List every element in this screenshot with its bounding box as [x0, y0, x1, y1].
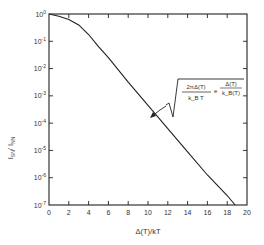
exp-symbol: e — [214, 88, 218, 94]
sqrt-denominator: k_B T — [188, 95, 204, 101]
y-tick-label: 10-5 — [34, 145, 46, 154]
x-tick-label: 2 — [67, 209, 71, 216]
exp-denominator: k_B(T) — [222, 90, 240, 96]
data-curve — [49, 14, 235, 205]
x-tick-label: 20 — [243, 209, 251, 216]
x-tick-label: 8 — [126, 209, 130, 216]
x-tick-label: 4 — [87, 209, 91, 216]
formula-annotation: 2πΔ(T) k_B T e Δ(T) k_B(T) — [150, 79, 244, 118]
y-axis-title: ISN/ INN — [6, 136, 16, 159]
x-tick-label: 6 — [106, 209, 110, 216]
y-tick-label: 10-2 — [34, 63, 46, 72]
x-tick-label: 18 — [223, 209, 231, 216]
sqrt-numerator: 2πΔ(T) — [186, 84, 205, 90]
y-tick-label: 10-4 — [34, 118, 46, 127]
x-tick-label: 16 — [204, 209, 212, 216]
exp-numerator: Δ(T) — [225, 81, 237, 87]
y-tick-label: 10-1 — [34, 36, 46, 45]
x-axis-title: Δ(T)/kT — [135, 227, 160, 236]
x-tick-label: 0 — [47, 209, 51, 216]
y-tick-label: 10-6 — [34, 172, 46, 181]
x-tick-label: 14 — [184, 209, 192, 216]
y-tick-label: 10-3 — [34, 90, 46, 99]
y-tick-label: 100 — [35, 9, 46, 18]
x-tick-label: 10 — [144, 209, 152, 216]
y-tick-label: 10-7 — [34, 200, 46, 209]
x-tick-label: 12 — [164, 209, 172, 216]
y-axis-ticks: 10010-110-210-310-410-510-610-7 — [34, 9, 247, 209]
svg-text:ISN/ INN: ISN/ INN — [6, 136, 16, 159]
plot-frame — [49, 14, 247, 205]
x-axis-ticks: 02468101214161820 — [47, 14, 251, 216]
chart-svg: 02468101214161820 10010-110-210-310-410-… — [0, 0, 264, 245]
